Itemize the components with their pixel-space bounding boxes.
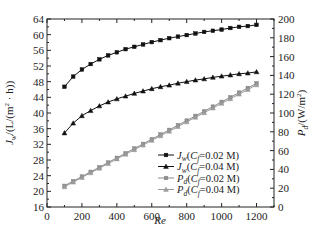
data-point (237, 25, 241, 29)
y-left-tick-label: 24 (33, 170, 45, 182)
y-left-tick-label: 48 (33, 76, 45, 88)
y-right-tick-label: 0 (278, 201, 284, 213)
data-point (89, 62, 93, 66)
data-point (255, 23, 259, 27)
y-left-tick-label: 44 (33, 91, 45, 103)
y-left-tick-label: 16 (33, 201, 45, 213)
data-point (106, 54, 110, 58)
data-point (88, 108, 93, 112)
data-point (71, 75, 75, 79)
y-left-tick-label: 20 (33, 185, 45, 197)
y-right-tick-label: 120 (278, 88, 295, 100)
y-right-tick-label: 60 (278, 145, 290, 157)
data-point (63, 85, 67, 89)
x-tick-label: 1000 (211, 210, 234, 222)
data-point (150, 40, 154, 44)
x-tick-label: 800 (178, 210, 195, 222)
data-point (80, 68, 84, 72)
y-right-tick-label: 200 (278, 13, 295, 25)
svg-text:Jw/(L/(m2 · h)): Jw/(L/(m2 · h)) (3, 81, 18, 145)
y-right-tick-label: 160 (278, 51, 295, 63)
y-left-tick-label: 60 (33, 29, 45, 41)
data-point (98, 58, 102, 62)
data-point (167, 36, 171, 40)
right-y-axis-title: Pd/(W/m2) (295, 89, 310, 137)
y-left-tick-label: 56 (33, 44, 45, 56)
series-0 (63, 23, 259, 88)
data-point (229, 26, 233, 30)
legend-marker (164, 176, 168, 180)
x-tick-label: 1200 (246, 210, 269, 222)
chart: 020040060080010001200 162024283236404448… (0, 0, 324, 244)
svg-text:Pd/(W/m2): Pd/(W/m2) (295, 89, 310, 137)
x-tick-label: 0 (44, 210, 50, 222)
data-point (115, 50, 119, 54)
y-right-tick-label: 180 (278, 32, 295, 44)
data-point (141, 43, 145, 47)
legend-label: Pd(Cf=0.04 M) (176, 184, 240, 198)
data-point (133, 45, 137, 49)
data-point (185, 33, 189, 37)
y-left-tick-label: 32 (33, 138, 44, 150)
left-y-axis-title: Jw/(L/(m2 · h)) (3, 81, 18, 145)
legend-marker (164, 153, 168, 157)
data-point (211, 29, 215, 33)
x-axis-title: Re (153, 214, 166, 226)
y-right-tick-label: 40 (278, 163, 290, 175)
y-right-tick-label: 20 (278, 182, 290, 194)
series-line (64, 72, 256, 133)
y-left-tick-label: 28 (33, 154, 45, 166)
y-left-tick-label: 52 (33, 60, 44, 72)
legend-item: Pd(Cf=0.04 M) (158, 184, 240, 198)
y-right-tick-label: 140 (278, 69, 295, 81)
y-left-tick-label: 36 (33, 123, 45, 135)
data-point (124, 47, 128, 51)
series-1 (62, 69, 259, 134)
data-point (80, 113, 85, 117)
data-point (194, 32, 198, 36)
data-point (202, 30, 206, 34)
y-right-tick-label: 80 (278, 126, 290, 138)
x-tick-label: 400 (109, 210, 126, 222)
data-point (246, 24, 250, 28)
legend: Jw(Cf=0.02 M)Jw(Cf=0.04 M)Pd(Cf=0.02 M)P… (158, 150, 240, 198)
data-point (220, 28, 224, 32)
y-left-tick-label: 40 (33, 107, 45, 119)
y-right-tick-label: 100 (278, 107, 295, 119)
series-line (64, 25, 256, 87)
left-y-axis-ticks: 16202428323640444852566064 (33, 13, 51, 213)
data-point (176, 35, 180, 39)
x-tick-label: 200 (74, 210, 91, 222)
y-left-tick-label: 64 (33, 13, 45, 25)
data-point (159, 38, 163, 42)
